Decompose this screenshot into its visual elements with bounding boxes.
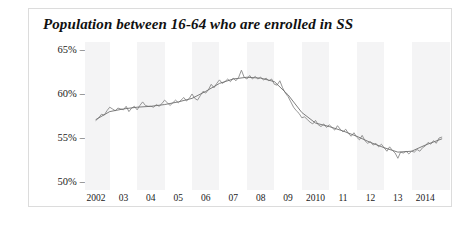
x-axis-tick-label: 07: [228, 193, 238, 203]
y-tick-text: 50%: [58, 176, 77, 187]
series-line-trend: [96, 77, 442, 152]
y-tick-text: 60%: [58, 88, 77, 99]
x-axis-tick-label: 06: [201, 193, 211, 203]
chart-title: Population between 16-64 who are enrolle…: [43, 16, 353, 33]
x-axis-tick-label: 08: [256, 193, 266, 203]
y-axis-tick-label: 55%–: [58, 132, 86, 143]
x-axis-tick-label: 13: [393, 193, 403, 203]
x-axis-tick-label: 03: [119, 193, 129, 203]
x-axis-tick-label: 04: [146, 193, 156, 203]
chart-figure: Population between 16-64 who are enrolle…: [28, 8, 452, 207]
y-axis-tick-label: 50%–: [58, 176, 86, 187]
x-axis-tick-label: 11: [338, 193, 347, 203]
x-axis-tick-label: 2010: [306, 193, 325, 203]
x-axis-tick-label: 2002: [86, 193, 105, 203]
y-tick-text: 55%: [58, 132, 77, 143]
y-tick-text: 65%: [58, 44, 77, 55]
x-axis-tick-label: 12: [366, 193, 376, 203]
series-line-monthly: [96, 70, 442, 158]
x-axis-tick-label: 09: [283, 193, 293, 203]
x-axis-tick-label: 05: [174, 193, 184, 203]
figure-caption: [30, 214, 450, 225]
plot-area: [85, 42, 450, 190]
y-axis-tick-label: 65%–: [58, 44, 86, 55]
x-axis: 20020304050607080920101112132014: [85, 193, 450, 209]
x-axis-tick-label: 2014: [416, 193, 435, 203]
y-axis-tick-label: 60%–: [58, 88, 86, 99]
chart-lines: [85, 42, 450, 190]
y-axis: 50%–55%–60%–65%–: [29, 42, 85, 190]
